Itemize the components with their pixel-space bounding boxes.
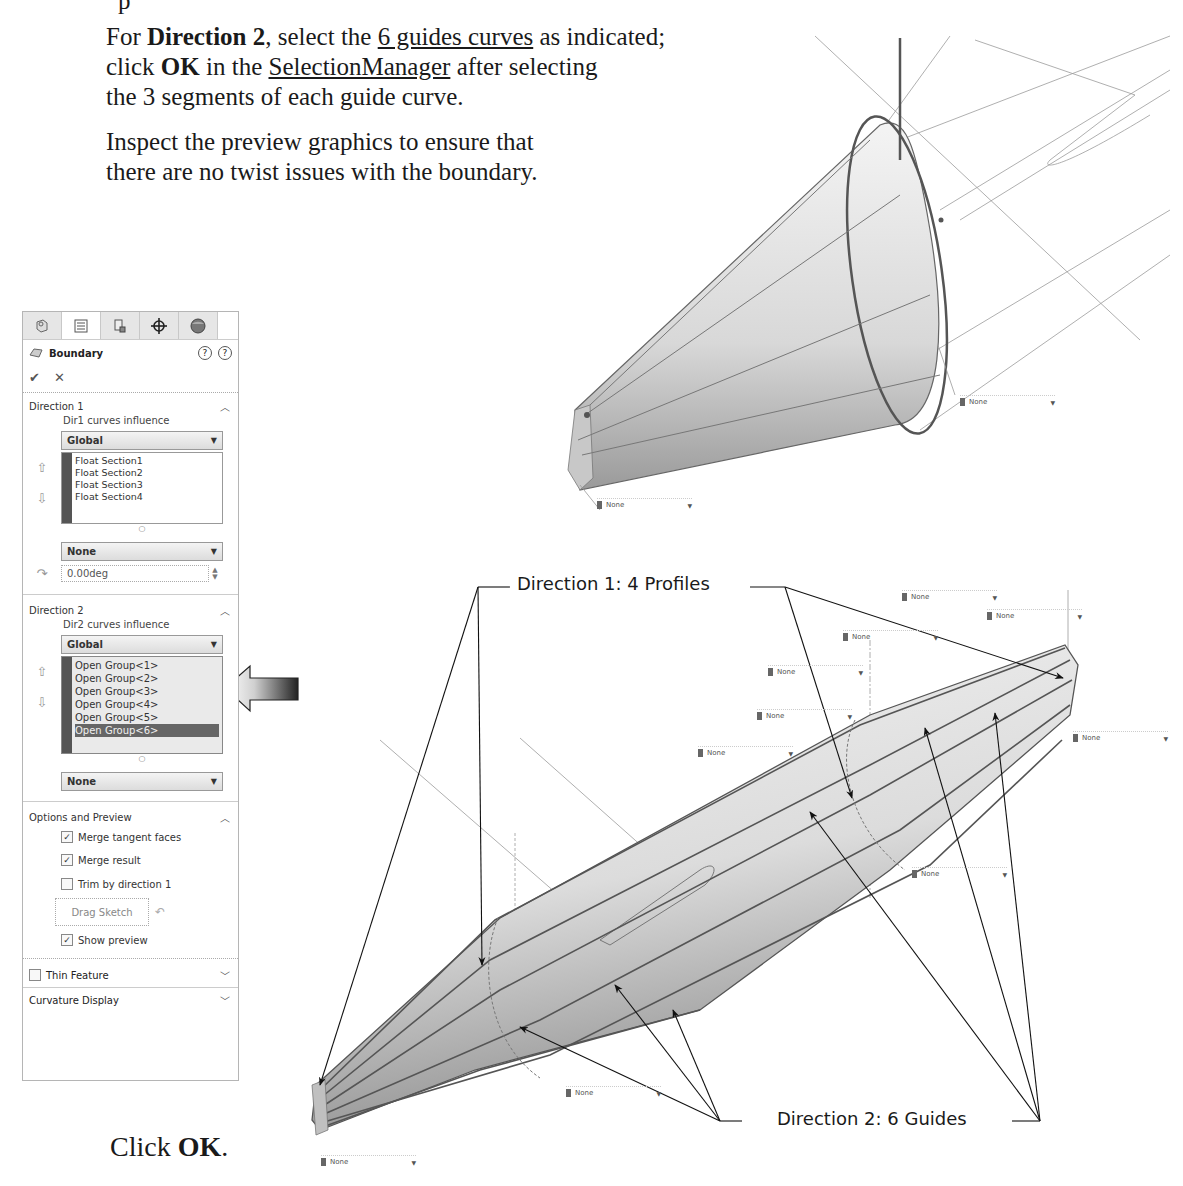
list-item[interactable]: Open Group<5> bbox=[75, 711, 219, 724]
tangency-tag[interactable]: None▼ bbox=[321, 1155, 416, 1168]
tag-color-icon bbox=[1073, 734, 1078, 742]
list-item[interactable]: Open Group<1> bbox=[75, 659, 219, 672]
tangency-tag[interactable]: None▼ bbox=[757, 709, 852, 722]
tangency-tag[interactable]: None▼ bbox=[698, 746, 793, 759]
trim-by-direction1-checkbox[interactable]: Trim by direction 1 bbox=[61, 872, 238, 896]
section-title: Direction 2 bbox=[29, 605, 84, 616]
chevron-down-icon: ▼ bbox=[211, 547, 217, 556]
thin-feature-checkbox[interactable] bbox=[29, 969, 41, 981]
thin-feature-header[interactable]: Thin Feature ﹀ bbox=[23, 963, 238, 987]
float-body-preview bbox=[312, 590, 1078, 1135]
checkbox-checked-icon[interactable]: ✓ bbox=[61, 831, 73, 843]
chevron-up-icon[interactable]: ︿ bbox=[220, 810, 230, 825]
tag-label: None bbox=[330, 1158, 348, 1166]
tangency-tag[interactable]: None▼ bbox=[768, 665, 863, 678]
angle-value: 0.00deg bbox=[67, 568, 108, 579]
merge-result-checkbox[interactable]: ✓Merge result bbox=[61, 848, 238, 872]
property-list-icon bbox=[72, 317, 90, 335]
list-item[interactable]: Float Section2 bbox=[75, 467, 219, 479]
tag-color-icon bbox=[987, 612, 992, 620]
section-title: Options and Preview bbox=[29, 812, 132, 823]
dropdown-value: None bbox=[67, 776, 96, 787]
checkbox-label: Show preview bbox=[78, 935, 148, 946]
display-manager-tab[interactable] bbox=[179, 312, 218, 339]
dir1-angle-input[interactable]: 0.00deg bbox=[61, 565, 209, 582]
list-item[interactable]: Float Section4 bbox=[75, 491, 219, 503]
chevron-up-icon[interactable]: ︿ bbox=[220, 399, 230, 414]
checkbox-unchecked-icon[interactable] bbox=[61, 878, 73, 890]
resize-handle[interactable]: ○ bbox=[61, 524, 223, 538]
list-item[interactable]: Open Group<4> bbox=[75, 698, 219, 711]
direction2-header[interactable]: Direction 2 ︿ bbox=[23, 601, 238, 619]
tag-color-icon bbox=[912, 870, 917, 878]
chevron-up-icon[interactable]: ︿ bbox=[220, 603, 230, 618]
help-icon[interactable]: ? bbox=[218, 346, 232, 360]
tag-color-icon bbox=[566, 1089, 571, 1097]
move-down-icon[interactable]: ⇩ bbox=[37, 695, 48, 710]
list-item[interactable]: Float Section3 bbox=[75, 479, 219, 491]
checkbox-label: Merge result bbox=[78, 855, 141, 866]
divider bbox=[23, 801, 238, 802]
move-down-icon[interactable]: ⇩ bbox=[37, 491, 48, 506]
callout-direction1-profiles: Direction 1: 4 Profiles bbox=[514, 573, 713, 594]
tag-color-icon bbox=[960, 398, 965, 406]
move-up-icon[interactable]: ⇧ bbox=[37, 460, 48, 475]
section-title: Direction 1 bbox=[29, 401, 84, 412]
configuration-manager-tab[interactable] bbox=[101, 312, 140, 339]
dropdown-arrow-icon: ▼ bbox=[411, 1159, 416, 1166]
options-preview-header[interactable]: Options and Preview ︿ bbox=[23, 808, 238, 826]
angle-spinner[interactable]: ▲▼ bbox=[209, 567, 221, 581]
cone-preview bbox=[568, 36, 1170, 510]
tangency-tag[interactable]: None▼ bbox=[566, 1086, 661, 1099]
tag-label: None bbox=[766, 712, 784, 720]
property-manager-tab[interactable] bbox=[62, 312, 101, 339]
chevron-down-icon: ▼ bbox=[211, 777, 217, 786]
show-preview-checkbox[interactable]: ✓Show preview bbox=[61, 928, 238, 952]
feature-manager-tab[interactable] bbox=[23, 312, 62, 339]
tangency-tag[interactable]: None▼ bbox=[597, 498, 692, 511]
list-item-selected[interactable]: Open Group<6> bbox=[75, 724, 219, 737]
dir2-influence-dropdown[interactable]: Global▼ bbox=[61, 635, 223, 654]
curvature-display-header[interactable]: Curvature Display ﹀ bbox=[23, 988, 238, 1012]
tangency-tag[interactable]: None▼ bbox=[902, 590, 997, 603]
dir1-tangency-dropdown[interactable]: None▼ bbox=[61, 542, 223, 561]
direction1-header[interactable]: Direction 1 ︿ bbox=[23, 397, 238, 415]
tag-color-icon bbox=[597, 501, 602, 509]
dir1-angle-row: ↷ 0.00deg ▲▼ bbox=[23, 565, 238, 582]
cancel-button[interactable]: ✕ bbox=[54, 370, 65, 385]
dropdown-arrow-icon: ▼ bbox=[1050, 399, 1055, 406]
tangency-tag[interactable]: None▼ bbox=[912, 867, 1007, 880]
list-item[interactable]: Open Group<3> bbox=[75, 685, 219, 698]
tangency-tag[interactable]: None▼ bbox=[1073, 731, 1168, 744]
dir1-influence-dropdown[interactable]: Global▼ bbox=[61, 431, 223, 450]
dir2-influence-label: Dir2 curves influence bbox=[63, 619, 238, 635]
resize-handle[interactable]: ○ bbox=[61, 754, 223, 768]
tag-label: None bbox=[707, 749, 725, 757]
list-item[interactable]: Open Group<2> bbox=[75, 672, 219, 685]
whats-wrong-help-icon[interactable]: ? bbox=[198, 346, 212, 360]
dir1-profiles-list-row: ⇧⇩ Float Section1 Float Section2 Float S… bbox=[23, 452, 238, 524]
undo-sketch-drag-icon[interactable]: ↶ bbox=[155, 905, 165, 919]
tangency-tag[interactable]: None▼ bbox=[843, 630, 938, 643]
list-item[interactable]: Float Section1 bbox=[75, 455, 219, 467]
dir2-tangency-dropdown[interactable]: None▼ bbox=[61, 772, 223, 791]
tag-color-icon bbox=[698, 749, 703, 757]
dir2-guides-list[interactable]: Open Group<1> Open Group<2> Open Group<3… bbox=[61, 656, 223, 754]
ok-button[interactable]: ✔ bbox=[29, 370, 40, 385]
tag-label: None bbox=[996, 612, 1014, 620]
checkbox-checked-icon[interactable]: ✓ bbox=[61, 934, 73, 946]
tag-label: None bbox=[1082, 734, 1100, 742]
dimxpert-tab[interactable] bbox=[140, 312, 179, 339]
dropdown-value: Global bbox=[67, 435, 103, 446]
tangency-tag[interactable]: None▼ bbox=[987, 609, 1082, 622]
merge-tangent-faces-checkbox[interactable]: ✓Merge tangent faces bbox=[61, 826, 238, 848]
drag-sketch-button[interactable]: Drag Sketch bbox=[55, 898, 149, 926]
dir1-profiles-list[interactable]: Float Section1 Float Section2 Float Sect… bbox=[61, 452, 223, 524]
tangency-tag[interactable]: None▼ bbox=[960, 395, 1055, 408]
move-up-icon[interactable]: ⇧ bbox=[37, 664, 48, 679]
panel-title-row: Boundary ? ? bbox=[23, 340, 238, 366]
dropdown-arrow-icon: ▼ bbox=[656, 1090, 661, 1097]
checkbox-checked-icon[interactable]: ✓ bbox=[61, 854, 73, 866]
chevron-down-icon[interactable]: ﹀ bbox=[220, 993, 230, 1008]
chevron-down-icon[interactable]: ﹀ bbox=[220, 968, 230, 983]
